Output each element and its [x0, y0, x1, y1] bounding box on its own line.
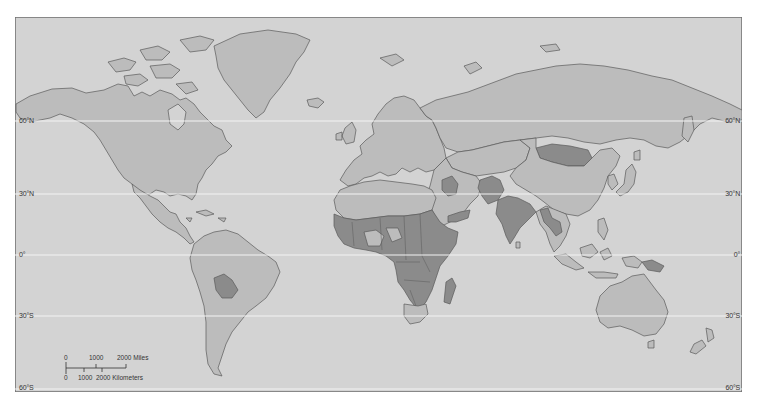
- lat-label-30n-right: 30°N: [725, 190, 740, 197]
- lat-label-60s-right: 60°S: [726, 384, 740, 391]
- scale-miles-end: 2000 Miles: [117, 354, 148, 361]
- scale-km-end: 2000 Kilometers: [96, 374, 143, 381]
- lat-label-equator-right: 0°: [734, 251, 740, 258]
- lat-label-60s-left: 60°S: [19, 384, 33, 391]
- scale-km-zero: 0: [64, 374, 68, 381]
- lat-label-60n-right: 60°N: [725, 117, 740, 124]
- map-canvas: [15, 17, 742, 392]
- scale-km-mid: 1000: [78, 374, 92, 381]
- scale-miles-zero: 0: [64, 354, 68, 361]
- scale-miles-mid: 1000: [89, 354, 103, 361]
- sri-lanka: [516, 242, 520, 248]
- lat-label-30s-right: 30°S: [726, 312, 740, 319]
- world-map: [15, 17, 742, 392]
- lat-label-30s-left: 30°S: [19, 312, 33, 319]
- lat-label-30n-left: 30°N: [19, 190, 34, 197]
- lat-label-60n-left: 60°N: [19, 117, 34, 124]
- lat-label-equator-left: 0°: [19, 251, 25, 258]
